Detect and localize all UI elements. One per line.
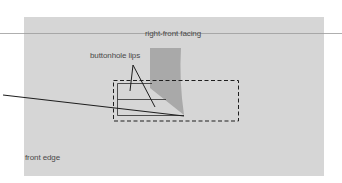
facing-shape (150, 48, 184, 115)
label-right-front-facing: right-front facing (145, 29, 201, 38)
lips-leader-line-1 (130, 65, 133, 91)
front-edge-leader-line (3, 95, 184, 116)
label-front-edge: front edge (25, 153, 60, 162)
label-buttonhole-lips: buttonhole lips (90, 51, 140, 60)
